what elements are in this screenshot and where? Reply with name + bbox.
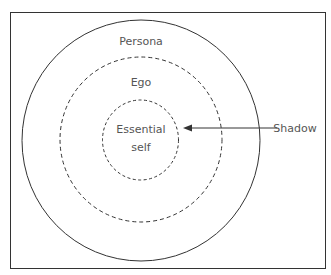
frame-border bbox=[11, 13, 326, 269]
arrow-head-icon bbox=[183, 125, 192, 132]
essential-label-line2: self bbox=[131, 141, 152, 154]
self-model-diagram: Persona Ego Essential self Shadow bbox=[0, 0, 331, 275]
ego-label: Ego bbox=[131, 76, 152, 89]
shadow-label: Shadow bbox=[273, 122, 316, 135]
essential-self-circle bbox=[103, 100, 179, 180]
persona-label: Persona bbox=[119, 35, 163, 48]
essential-label-line1: Essential bbox=[116, 123, 165, 136]
